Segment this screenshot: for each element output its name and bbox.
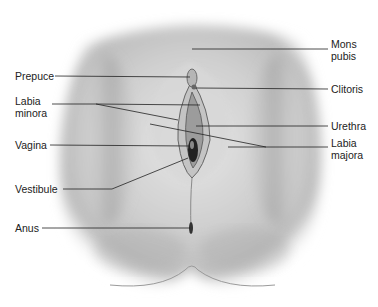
label-vagina: Vagina [15,139,47,151]
label-anus: Anus [15,222,39,234]
label-mons-pubis-line1: Mons [331,38,357,50]
label-labia-majora: Labia majora [331,137,363,161]
anatomical-illustration [0,0,378,307]
label-vestibule: Vestibule [15,183,58,195]
label-labia-minora-line1: Labia [15,95,47,107]
label-mons-pubis-line2: pubis [331,50,357,62]
label-labia-minora: Labia minora [15,95,47,119]
clitoris-shape [192,85,197,90]
label-prepuce: Prepuce [15,70,54,82]
label-labia-majora-line1: Labia [331,137,363,149]
label-labia-majora-line2: majora [331,149,363,161]
label-clitoris: Clitoris [331,83,363,95]
label-labia-minora-line2: minora [15,107,47,119]
label-mons-pubis: Mons pubis [331,38,357,62]
label-urethra: Urethra [331,120,366,132]
prepuce-shape [187,69,197,87]
